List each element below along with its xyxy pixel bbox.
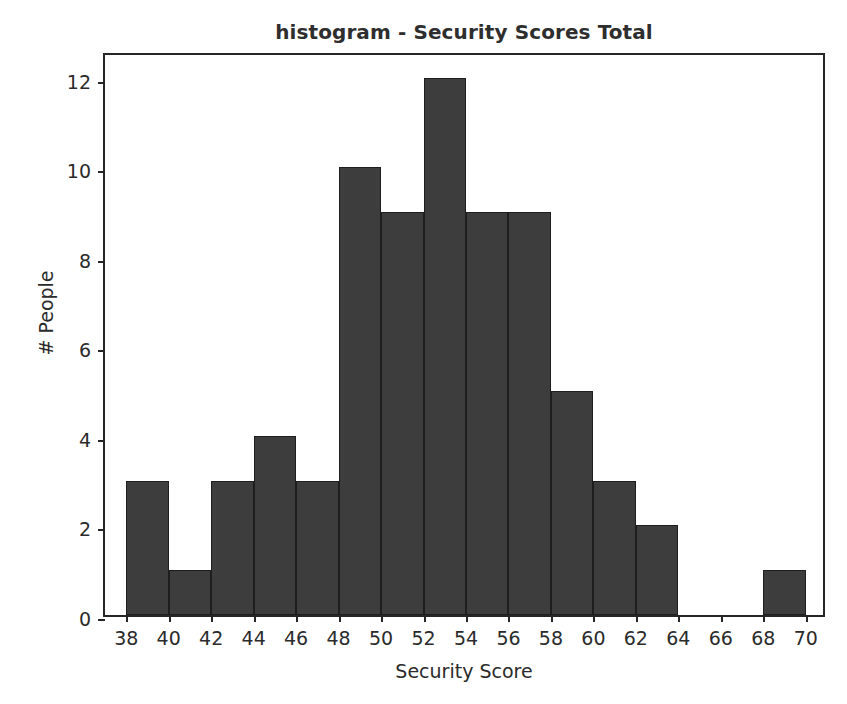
x-tick-label: 40: [157, 627, 181, 649]
x-tick-label: 44: [242, 627, 266, 649]
chart-title: histogram - Security Scores Total: [103, 20, 825, 44]
x-axis-tick: [296, 615, 298, 622]
bars-layer: [105, 55, 823, 615]
y-tick-mark: [98, 171, 105, 173]
x-axis-tick: [721, 615, 723, 622]
y-tick-label: 12: [67, 71, 91, 93]
x-axis-tick: [593, 615, 595, 622]
histogram-bar: [508, 212, 550, 615]
x-tick-label: 66: [709, 627, 733, 649]
x-axis-tick: [508, 615, 510, 622]
x-axis-tick: [381, 615, 383, 622]
y-tick-mark: [98, 261, 105, 263]
y-tick-label: 0: [79, 608, 91, 630]
histogram-bar: [126, 481, 168, 615]
x-axis-tick: [551, 615, 553, 622]
x-tick-label: 64: [666, 627, 690, 649]
y-tick-mark: [98, 82, 105, 84]
x-tick-label: 52: [411, 627, 435, 649]
x-axis-tick: [211, 615, 213, 622]
x-axis-tick: [339, 615, 341, 622]
y-tick-mark: [98, 619, 105, 621]
y-tick-label: 8: [79, 250, 91, 272]
y-tick-mark: [98, 350, 105, 352]
x-tick-label: 50: [369, 627, 393, 649]
plot-area: 024681012 384042444648505254565860626466…: [103, 53, 825, 617]
x-axis-tick: [126, 615, 128, 622]
x-axis-tick: [254, 615, 256, 622]
x-tick-label: 46: [284, 627, 308, 649]
histogram-bar: [551, 391, 593, 615]
x-tick-label: 58: [539, 627, 563, 649]
y-tick-mark: [98, 440, 105, 442]
x-axis-tick: [763, 615, 765, 622]
x-tick-label: 60: [581, 627, 605, 649]
histogram-bar: [763, 570, 805, 615]
y-axis-title: # People: [35, 253, 57, 373]
x-axis-title: Security Score: [103, 660, 825, 682]
x-axis-tick: [424, 615, 426, 622]
x-tick-label: 56: [496, 627, 520, 649]
x-tick-label: 68: [751, 627, 775, 649]
x-axis-tick: [806, 615, 808, 622]
x-tick-label: 38: [114, 627, 138, 649]
histogram-bar: [636, 525, 678, 615]
histogram-bar: [424, 78, 466, 615]
y-tick-label: 6: [79, 339, 91, 361]
x-axis-tick: [636, 615, 638, 622]
y-tick-label: 2: [79, 518, 91, 540]
x-tick-label: 48: [326, 627, 350, 649]
histogram-bar: [169, 570, 211, 615]
x-tick-label: 54: [454, 627, 478, 649]
histogram-bar: [211, 481, 253, 615]
histogram-bar: [339, 167, 381, 615]
y-tick-mark: [98, 529, 105, 531]
histogram-bar: [254, 436, 296, 615]
x-axis-tick: [169, 615, 171, 622]
histogram-bar: [466, 212, 508, 615]
x-axis-tick: [678, 615, 680, 622]
histogram-bar: [593, 481, 635, 615]
x-axis-tick: [466, 615, 468, 622]
y-tick-label: 4: [79, 429, 91, 451]
histogram-bar: [296, 481, 338, 615]
x-tick-label: 62: [624, 627, 648, 649]
x-tick-label: 70: [794, 627, 818, 649]
x-tick-label: 42: [199, 627, 223, 649]
histogram-bar: [381, 212, 423, 615]
y-tick-label: 10: [67, 160, 91, 182]
histogram-figure: histogram - Security Scores Total 024681…: [0, 0, 847, 704]
